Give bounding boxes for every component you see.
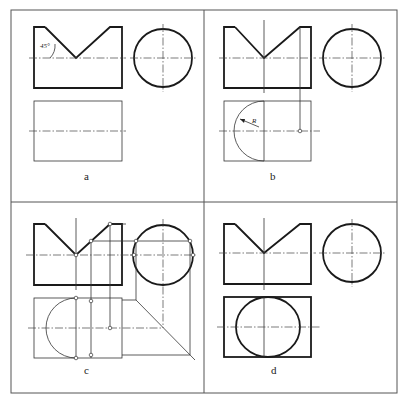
panel-label-c: c (84, 364, 89, 376)
panel-label-a: a (84, 170, 89, 182)
construction-point (134, 239, 138, 243)
construction-point (108, 222, 112, 226)
projection-point (298, 129, 302, 133)
radius-arrow-icon (240, 119, 245, 123)
panel-label-d: d (271, 364, 277, 376)
construction-point (108, 326, 112, 330)
construction-point (132, 253, 136, 257)
construction-point (89, 353, 93, 357)
panel-d: d (217, 218, 385, 376)
construction-point (74, 296, 78, 300)
construction-point (89, 239, 93, 243)
construction-point (74, 253, 78, 257)
projection-figure: 45° a R b (0, 0, 407, 404)
panel-grid (11, 10, 397, 393)
construction-point (188, 239, 192, 243)
panel-b: R b (219, 20, 385, 182)
front-view-outline (224, 224, 311, 284)
miter-line (136, 300, 195, 360)
panel-label-b: b (270, 170, 276, 182)
front-view-outline (224, 27, 311, 88)
construction-point (89, 299, 93, 303)
angle-arc (50, 44, 55, 58)
panel-c: c (26, 218, 196, 376)
construction-point (191, 253, 195, 257)
angle-label: 45° (40, 42, 50, 50)
construction-point (74, 356, 78, 360)
front-view-outline (34, 27, 122, 88)
radius-label: R (251, 117, 257, 125)
panel-a: 45° a (29, 24, 196, 182)
